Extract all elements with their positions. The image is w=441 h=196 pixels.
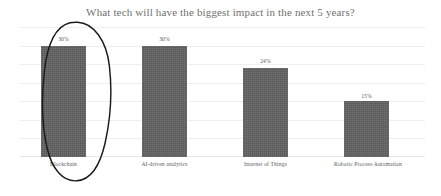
bar-robotic-process-automation [344, 101, 389, 157]
value-label-internet-of-things: 24% [243, 58, 288, 64]
chart-title: What tech will have the biggest impact i… [0, 6, 441, 18]
plot-area [20, 27, 425, 157]
value-label-ai-driven-analytics: 30% [142, 36, 187, 42]
category-label-robotic-process-automation: Robotic Process Automation [313, 161, 423, 167]
gridline [20, 27, 425, 28]
bar-chart: What tech will have the biggest impact i… [0, 0, 441, 196]
bar-ai-driven-analytics [142, 46, 187, 157]
category-label-blockchain: Blockchain [21, 161, 106, 167]
value-label-robotic-process-automation: 15% [344, 93, 389, 99]
category-label-ai-driven-analytics: AI-driven analytics [122, 161, 207, 167]
bar-blockchain [41, 46, 86, 157]
bar-internet-of-things [243, 68, 288, 157]
value-label-blockchain: 30% [41, 36, 86, 42]
category-label-internet-of-things: Internet of Things [223, 161, 308, 167]
